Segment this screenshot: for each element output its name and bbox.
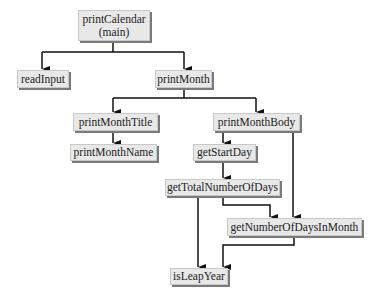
node-label: printMonthName [74,146,154,159]
node-printMonthTitle: printMonthTitle [73,113,158,131]
node-label: isLeapYear [173,270,225,283]
node-printMonthBody: printMonthBody [213,113,300,131]
node-printCalendar: printCalendar (main) [78,10,150,41]
node-label: printMonth [157,73,209,86]
node-isLeapYear: isLeapYear [170,268,228,285]
connector-lines [0,0,375,297]
node-label: printMonthTitle [79,116,153,129]
node-readInput: readInput [17,70,69,88]
node-label: printMonthBody [218,116,295,129]
node-sublabel: (main) [99,26,130,39]
node-label: getStartDay [197,146,252,159]
edge-daysInMonth-to-isLeapYear [223,236,294,267]
node-label: getTotalNumberOfDays [167,181,278,194]
node-label: printCalendar [82,13,145,26]
node-printMonth: printMonth [155,70,212,88]
node-getTotalNumberOfDays: getTotalNumberOfDays [165,179,280,196]
node-label: getNumberOfDaysInMonth [231,221,359,234]
edge-total-to-getNumberOfDaysInMonth [223,196,270,217]
node-label: readInput [21,73,65,86]
node-getStartDay: getStartDay [193,144,256,161]
node-printMonthName: printMonthName [70,144,157,161]
node-getNumberOfDaysInMonth: getNumberOfDaysInMonth [227,218,362,236]
